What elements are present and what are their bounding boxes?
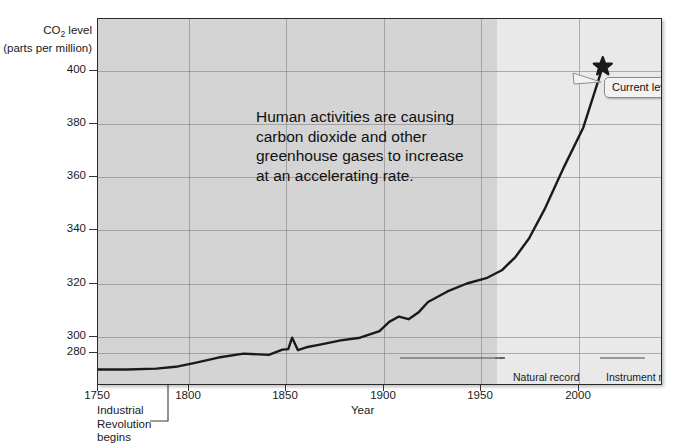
co2-chart-figure: Natural record Instrument record Human a… (0, 0, 678, 448)
y-axis-title-level: level (65, 24, 92, 36)
xtick-label-1750: 1750 (67, 389, 127, 401)
x-axis-title: Year (351, 404, 374, 416)
industrial-note-line3: begins (97, 431, 131, 443)
instrument-record-label: Instrument record (606, 371, 662, 383)
ytick-label-280: 280 (46, 346, 86, 358)
natural-record-label: Natural record (513, 371, 580, 383)
human-activities-annotation: Human activities are causing carbon diox… (256, 107, 471, 185)
y-axis-title: CO2 level (parts per million) (0, 24, 92, 55)
ytick-mark-360 (89, 176, 98, 177)
gridline-y-340 (98, 230, 661, 231)
ytick-label-360: 360 (46, 170, 86, 182)
ytick-label-400: 400 (46, 64, 86, 76)
industrial-note-line2: Revolution (97, 418, 151, 430)
xtick-label-1950: 1950 (450, 389, 510, 401)
ytick-label-380: 380 (46, 117, 86, 129)
xtick-label-1850: 1850 (255, 389, 315, 401)
ytick-mark-380 (89, 123, 98, 124)
gridline-y-300 (98, 337, 661, 338)
y-axis-title-units: (parts per million) (3, 42, 92, 54)
ytick-mark-300 (89, 336, 98, 337)
ytick-label-340: 340 (46, 223, 86, 235)
xtick-label-1800: 1800 (158, 389, 218, 401)
industrial-revolution-note: Industrial Revolution begins (97, 404, 151, 445)
current-level-callout: Current level (604, 77, 662, 98)
xtick-label-1900: 1900 (353, 389, 413, 401)
ytick-mark-340 (89, 229, 98, 230)
gridline-y-320 (98, 284, 661, 285)
y-axis-title-co2: CO (43, 24, 60, 36)
plot-area: Natural record Instrument record Human a… (97, 18, 662, 385)
ytick-label-300: 300 (46, 330, 86, 342)
gridline-x-1850 (286, 19, 287, 384)
gridline-x-1950 (481, 19, 482, 384)
gridline-y-280-upper (98, 353, 661, 354)
industrial-note-line1: Industrial (97, 404, 144, 416)
xtick-label-2000: 2000 (548, 389, 608, 401)
gridline-x-1800 (189, 19, 190, 384)
gridline-y-400 (98, 71, 661, 72)
ytick-label-320: 320 (46, 277, 86, 289)
ytick-mark-320 (89, 283, 98, 284)
gridline-x-2000 (579, 19, 580, 384)
ytick-mark-400 (89, 70, 98, 71)
gridline-x-1900 (384, 19, 385, 384)
ytick-mark-280 (89, 352, 98, 353)
